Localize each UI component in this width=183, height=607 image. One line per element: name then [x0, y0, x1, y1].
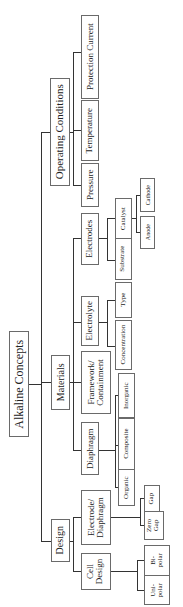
label: Operating Conditions	[54, 84, 66, 179]
to-bipolar	[137, 560, 144, 561]
operating-branch	[73, 52, 74, 185]
root-node: Alkaline Concepts	[9, 331, 29, 437]
node-temperature: Temperature	[81, 100, 99, 161]
main-trunk	[41, 132, 42, 542]
line2: polar	[157, 583, 164, 597]
to-type	[107, 300, 115, 301]
ed-branch	[140, 498, 141, 525]
label: Framework/Containment	[87, 359, 106, 406]
label: Catalyst	[120, 207, 127, 230]
node-gap: Gap	[144, 485, 160, 512]
electrodes-branch	[107, 218, 108, 260]
label: Composite	[123, 429, 130, 459]
node-catalyst: Catalyst	[115, 198, 132, 239]
label: Design	[55, 526, 66, 554]
node-electrolyte: Electrolyte	[81, 296, 99, 346]
label: Pressure	[85, 170, 94, 201]
node-cell-design: CellDesign	[81, 553, 111, 590]
label: Anode	[144, 224, 150, 240]
label: Temperature	[85, 108, 94, 153]
node-composite: Composite	[118, 418, 135, 470]
label: Materials	[55, 364, 66, 402]
to-protection	[73, 52, 81, 53]
node-organic: Organic	[118, 469, 135, 506]
node-diaphragm: Diaphragm	[81, 422, 99, 475]
node-pressure: Pressure	[81, 163, 99, 207]
ed-out	[111, 517, 140, 518]
label: Electrolyte	[85, 301, 94, 340]
node-operating-conditions: Operating Conditions	[50, 78, 70, 186]
catalyst-branch	[136, 195, 137, 232]
electrodes-out	[99, 238, 107, 239]
node-unipolar: Uni-polar	[144, 575, 170, 605]
electrolyte-out	[99, 322, 107, 323]
to-electrolyte	[73, 322, 81, 323]
node-electrodes: Electrodes	[81, 213, 99, 265]
root-label: Alkaline Concepts	[13, 340, 26, 429]
diaphragm-branch	[115, 395, 116, 487]
to-electrodes	[73, 238, 81, 239]
label: Type	[120, 293, 127, 307]
line2: polar	[157, 553, 164, 567]
to-framework	[73, 382, 81, 383]
label: Organic	[123, 476, 130, 498]
node-protection-current: Protection Current	[81, 15, 99, 99]
to-concentration	[107, 346, 115, 347]
op-conn	[70, 132, 73, 133]
node-concentration: Concentration	[115, 320, 132, 370]
label: ZeroGap	[147, 519, 162, 532]
node-anode: Anode	[140, 216, 155, 249]
cd-branch	[137, 560, 138, 590]
node-cathode: Cathode	[140, 178, 155, 212]
label: Electrode/Diaphragm	[87, 497, 106, 538]
label: Protection Current	[85, 24, 94, 91]
line2: Gap	[154, 519, 161, 532]
trunk-to-design	[41, 541, 51, 542]
to-diaphragm	[73, 450, 81, 451]
node-framework-containment: Framework/Containment	[81, 351, 111, 414]
label: Diaphragm	[85, 428, 94, 469]
node-bipolar: Bi-polar	[144, 545, 170, 576]
to-catalyst	[107, 218, 115, 219]
materials-branch	[73, 238, 74, 450]
node-zero-gap: ZeroGap	[144, 511, 164, 540]
node-materials: Materials	[51, 355, 70, 410]
to-substrate	[107, 260, 115, 261]
label: Electrodes	[85, 220, 94, 258]
diaphragm-out	[99, 450, 115, 451]
line2: Design	[96, 559, 105, 585]
root-connector	[29, 384, 41, 385]
node-electrode-diaphragm: Electrode/Diaphragm	[81, 490, 111, 545]
label: Gap	[148, 493, 155, 505]
to-unipolar	[137, 590, 144, 591]
electrolyte-branch	[107, 300, 108, 346]
to-temperature	[73, 130, 81, 131]
trunk-to-operating	[41, 132, 50, 133]
label: Inorganic	[123, 382, 130, 409]
node-inorganic: Inorganic	[118, 373, 135, 418]
trunk-to-materials	[41, 382, 51, 383]
to-electrode-diaphragm	[73, 517, 81, 518]
line2: Containment	[96, 359, 105, 406]
line2: Diaphragm	[96, 497, 105, 538]
to-cell-design	[73, 571, 81, 572]
node-substrate: Substrate	[115, 238, 132, 280]
label: Cathode	[144, 185, 150, 205]
label: CellDesign	[87, 559, 106, 585]
label: Concentration	[120, 325, 127, 365]
label: Bi-polar	[150, 553, 165, 567]
cd-out	[111, 571, 137, 572]
design-branch	[73, 517, 74, 571]
label: Uni-polar	[150, 583, 165, 597]
node-type: Type	[115, 282, 132, 318]
node-design: Design	[51, 519, 70, 562]
to-pressure	[73, 185, 81, 186]
label: Substrate	[120, 246, 127, 272]
